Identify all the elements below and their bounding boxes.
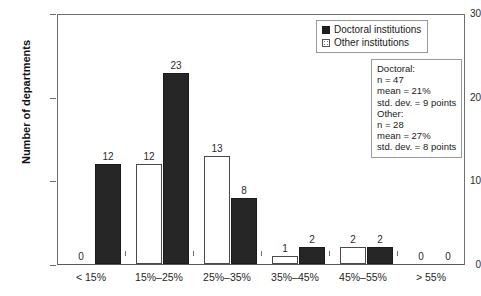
bar-value-label: 2 bbox=[338, 235, 368, 245]
y-tick-mark-20 bbox=[50, 98, 56, 99]
stats-line-3: std. dev. = 9 points bbox=[377, 97, 456, 108]
stats-line-2: mean = 21% bbox=[377, 85, 456, 96]
bar-group: 138 bbox=[204, 13, 257, 264]
x-tick-label-5: > 55% bbox=[391, 272, 471, 283]
stats-line-5: n = 28 bbox=[377, 119, 456, 130]
bar-other bbox=[340, 247, 366, 264]
bar-doctoral bbox=[95, 164, 121, 264]
bar-value-label: 2 bbox=[365, 235, 395, 245]
bar-value-label: 1 bbox=[270, 244, 300, 254]
bar-doctoral bbox=[231, 198, 257, 264]
y-tick-mark-0 bbox=[50, 265, 56, 266]
bar-value-label: 0 bbox=[66, 252, 96, 262]
bar-value-label: 12 bbox=[93, 152, 123, 162]
x-tick-mark-1 bbox=[125, 251, 126, 256]
legend-label-doctoral: Doctoral institutions bbox=[334, 24, 421, 37]
bar-value-label: 0 bbox=[406, 252, 436, 262]
legend-item-doctoral: Doctoral institutions bbox=[322, 24, 421, 37]
stats-line-7: std. dev. = 8 points bbox=[377, 141, 456, 152]
bar-doctoral bbox=[299, 247, 325, 264]
legend-label-other: Other institutions bbox=[334, 37, 409, 50]
legend: Doctoral institutions Other institutions bbox=[316, 20, 428, 53]
x-tick-mark-4 bbox=[329, 251, 330, 256]
bar-doctoral bbox=[367, 247, 393, 264]
bar-value-label: 2 bbox=[297, 235, 327, 245]
y-axis-title: Number of departments bbox=[20, 32, 32, 172]
stats-line-4: Other: bbox=[377, 108, 456, 119]
x-tick-mark-3 bbox=[261, 251, 262, 256]
bar-value-label: 12 bbox=[134, 152, 164, 162]
bar-value-label: 23 bbox=[161, 61, 191, 71]
bar-other bbox=[204, 156, 230, 264]
x-tick-mark-5 bbox=[397, 251, 398, 256]
bar-group: 012 bbox=[68, 13, 121, 264]
stats-annotation-box: Doctoral: n = 47 mean = 21% std. dev. = … bbox=[371, 59, 462, 158]
y-tick-mark-30 bbox=[50, 14, 56, 15]
x-tick-mark-2 bbox=[193, 251, 194, 256]
bar-value-label: 13 bbox=[202, 144, 232, 154]
stats-line-6: mean = 27% bbox=[377, 130, 456, 141]
bar-chart: Number of departments 30 20 10 0 0121223… bbox=[0, 0, 481, 296]
bar-doctoral bbox=[163, 73, 189, 264]
legend-item-other: Other institutions bbox=[322, 37, 421, 50]
y-tick-mark-10 bbox=[50, 181, 56, 182]
bar-value-label: 8 bbox=[229, 186, 259, 196]
bar-group: 1223 bbox=[136, 13, 189, 264]
stats-line-0: Doctoral: bbox=[377, 63, 456, 74]
bar-other bbox=[272, 256, 298, 264]
stats-line-1: n = 47 bbox=[377, 74, 456, 85]
legend-swatch-solid-square-icon bbox=[322, 26, 330, 34]
bar-value-label: 0 bbox=[433, 252, 463, 262]
bar-other bbox=[136, 164, 162, 264]
legend-swatch-dotted-square-icon bbox=[322, 39, 330, 47]
